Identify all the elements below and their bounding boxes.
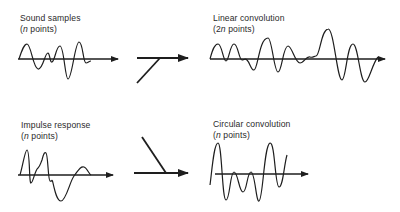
sound-samples-plot: [18, 42, 118, 79]
top-merge-arrow: [137, 58, 188, 83]
linear-convolution-waveform: [210, 29, 378, 82]
sound-samples-waveform: [19, 42, 91, 79]
bottom-merge-arrow: [134, 137, 188, 173]
circular-convolution-plot: [210, 143, 308, 201]
linear-convolution-plot: [210, 29, 385, 82]
diagram-canvas: [0, 0, 400, 212]
impulse-response-plot: [18, 150, 113, 201]
circular-convolution-waveform: [210, 143, 287, 201]
